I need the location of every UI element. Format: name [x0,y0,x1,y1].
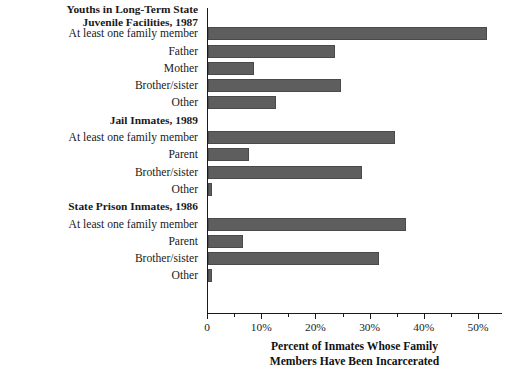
bar [208,218,406,231]
x-axis-title: Percent of Inmates Whose Family Members … [207,340,502,369]
section-header-row: Youths in Long-Term StateJuvenile Facili… [0,8,529,25]
bar [208,79,341,92]
category-label: At least one family member [0,216,198,233]
plot-area: Youths in Long-Term StateJuvenile Facili… [0,0,529,379]
x-tick-label: 40% [399,320,449,334]
x-tick-label: 50% [453,320,503,334]
chart-row: Other [0,94,529,111]
chart-row: Parent [0,146,529,163]
section-header-label: Jail Inmates, 1989 [0,112,198,129]
x-tick-minor [343,313,344,317]
section-header-row: Jail Inmates, 1989 [0,112,529,129]
chart-row: Other [0,267,529,284]
x-tick-major [261,313,262,319]
bar [208,45,335,58]
bar [208,96,276,109]
x-tick-label: 0 [182,320,232,334]
x-tick-minor [451,313,452,317]
chart-row: Parent [0,233,529,250]
category-label: Brother/sister [0,77,198,94]
x-tick-minor [288,313,289,317]
category-label: Mother [0,60,198,77]
x-tick-major [315,313,316,319]
category-label: Other [0,181,198,198]
x-tick-major [207,313,208,319]
chart-rows: Youths in Long-Term StateJuvenile Facili… [0,8,529,285]
bar [208,131,395,144]
chart-row: Brother/sister [0,164,529,181]
x-tick-major [370,313,371,319]
category-label: Brother/sister [0,250,198,267]
category-label: At least one family member [0,129,198,146]
x-tick-minor [397,313,398,317]
category-label: Other [0,267,198,284]
category-label: Other [0,94,198,111]
x-axis-line [207,313,502,314]
chart-row: At least one family member [0,25,529,42]
section-header-label: State Prison Inmates, 1986 [0,198,198,215]
bar-chart: Youths in Long-Term StateJuvenile Facili… [0,0,529,379]
category-label: Father [0,43,198,60]
x-tick-major [424,313,425,319]
chart-row: At least one family member [0,129,529,146]
category-label: Parent [0,146,198,163]
category-label: Parent [0,233,198,250]
x-tick-label: 10% [236,320,286,334]
category-label: At least one family member [0,25,198,42]
x-tick-label: 20% [290,320,340,334]
bar [208,148,249,161]
chart-row: Mother [0,60,529,77]
bar [208,166,362,179]
chart-row: Brother/sister [0,77,529,94]
bar [208,235,243,248]
x-axis-title-line-1: Percent of Inmates Whose Family [207,340,502,355]
chart-row: Brother/sister [0,250,529,267]
bar [208,252,379,265]
x-tick-minor [234,313,235,317]
x-tick-major [478,313,479,319]
section-header-line-1: Youths in Long-Term State [0,3,198,16]
bar [208,183,212,196]
x-axis-title-line-2: Members Have Been Incarcerated [207,355,502,370]
x-tick-label: 30% [345,320,395,334]
bar [208,62,254,75]
category-label: Brother/sister [0,164,198,181]
section-header-row: State Prison Inmates, 1986 [0,198,529,215]
bar [208,269,212,282]
chart-row: Other [0,181,529,198]
bar [208,27,487,40]
chart-row: Father [0,43,529,60]
chart-row: At least one family member [0,216,529,233]
